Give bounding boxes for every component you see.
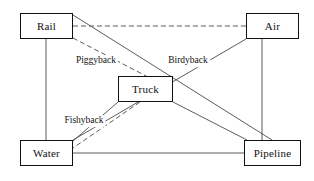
edge-truck-pipeline [173,102,247,140]
node-truck-label: Truck [132,84,159,95]
node-water[interactable]: Water [20,140,73,166]
edge-label-piggyback: Piggyback [74,55,118,67]
node-air-label: Air [265,21,280,32]
node-rail[interactable]: Rail [20,13,73,39]
intermodal-transport-diagram: Rail Air Truck Water Pipeline Piggyback … [0,0,314,181]
edge-label-birdyback: Birdyback [166,55,210,67]
node-pipeline[interactable]: Pipeline [244,140,301,166]
node-water-label: Water [33,148,60,159]
node-truck[interactable]: Truck [118,76,173,102]
node-air[interactable]: Air [246,13,299,39]
node-pipeline-label: Pipeline [254,148,292,159]
node-rail-label: Rail [37,21,56,32]
edge-label-fishyback: Fishyback [62,115,105,127]
